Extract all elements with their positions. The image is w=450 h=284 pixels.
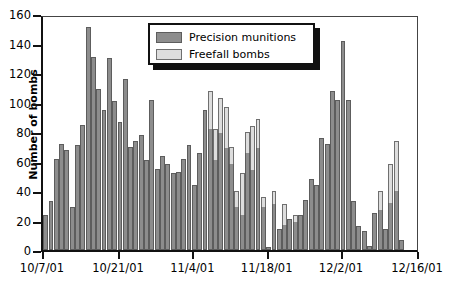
bar-segment-precision-munitions	[49, 201, 54, 250]
bar	[192, 185, 197, 250]
bar	[43, 215, 48, 250]
bar-segment-freefall-bombs	[229, 147, 234, 165]
bar	[64, 150, 69, 250]
bar-segment-precision-munitions	[341, 41, 346, 250]
bar	[187, 145, 192, 250]
chart-legend: Precision munitions Freefall bombs	[148, 23, 315, 65]
bar	[181, 159, 186, 250]
bar-segment-precision-munitions	[224, 148, 229, 250]
bar-segment-precision-munitions	[330, 91, 335, 250]
bar-segment-precision-munitions	[203, 110, 208, 250]
bar	[346, 100, 351, 250]
bar-segment-precision-munitions	[118, 122, 123, 250]
bar-segment-precision-munitions	[128, 147, 133, 250]
bar-segment-freefall-bombs	[272, 191, 277, 204]
bar	[298, 215, 303, 250]
bar	[234, 191, 239, 250]
y-axis-tick	[33, 192, 41, 194]
bar-segment-freefall-bombs	[394, 141, 399, 191]
y-axis-tick-label: 140	[0, 40, 31, 52]
bar-segment-precision-munitions	[335, 100, 340, 250]
bar-segment-precision-munitions	[213, 160, 218, 250]
bar-segment-precision-munitions	[70, 207, 75, 250]
bar-segment-precision-munitions	[261, 207, 266, 250]
bar	[287, 219, 292, 250]
bar	[367, 246, 372, 250]
bar	[107, 58, 112, 250]
bar-segment-freefall-bombs	[213, 129, 218, 160]
bar-segment-precision-munitions	[192, 185, 197, 250]
bar-segment-precision-munitions	[144, 160, 149, 250]
bar-segment-precision-munitions	[282, 225, 287, 250]
bar-segment-precision-munitions	[245, 153, 250, 250]
bar-segment-freefall-bombs	[388, 164, 393, 202]
bar	[229, 147, 234, 250]
bar-segment-precision-munitions	[208, 129, 213, 250]
legend-label-precision-munitions: Precision munitions	[189, 31, 296, 44]
y-axis-tick-label: 60	[0, 158, 31, 170]
bar	[59, 144, 64, 250]
bar	[266, 247, 271, 250]
bar-segment-precision-munitions	[43, 215, 48, 250]
bar-segment-precision-munitions	[160, 156, 165, 250]
bar	[203, 110, 208, 250]
bar-segment-precision-munitions	[80, 125, 85, 250]
bar	[75, 145, 80, 250]
bar	[330, 91, 335, 250]
bar	[293, 215, 298, 250]
bar	[245, 132, 250, 250]
bar-segment-precision-munitions	[388, 203, 393, 250]
bar	[372, 213, 377, 250]
bar	[309, 179, 314, 250]
bar-segment-precision-munitions	[102, 110, 107, 250]
bar-segment-freefall-bombs	[234, 191, 239, 207]
bar-segment-precision-munitions	[351, 201, 356, 250]
bar	[86, 27, 91, 250]
bar-segment-precision-munitions	[272, 204, 277, 250]
x-axis-tick-label: 11/18/01	[227, 261, 307, 275]
legend-item-freefall-bombs: Freefall bombs	[156, 46, 307, 62]
bar	[213, 129, 218, 250]
bar-segment-precision-munitions	[303, 200, 308, 250]
bar-segment-freefall-bombs	[256, 119, 261, 149]
bar-segment-precision-munitions	[197, 153, 202, 250]
bar	[102, 110, 107, 250]
bar-segment-precision-munitions	[96, 89, 101, 250]
bar-segment-freefall-bombs	[224, 107, 229, 148]
bar-segment-freefall-bombs	[240, 173, 245, 214]
y-axis-tick-label: 160	[0, 10, 31, 22]
bar	[80, 125, 85, 250]
bar	[112, 101, 117, 250]
bar	[128, 147, 133, 250]
bar-segment-precision-munitions	[234, 207, 239, 250]
bar	[319, 138, 324, 250]
bar-segment-freefall-bombs	[378, 191, 383, 210]
bar	[240, 173, 245, 250]
y-axis-tick-label: 20	[0, 217, 31, 229]
bar	[208, 91, 213, 250]
bar	[314, 185, 319, 250]
bar	[224, 107, 229, 250]
bar	[261, 197, 266, 250]
x-axis-tick	[267, 252, 269, 259]
y-axis-tick	[33, 133, 41, 135]
bar	[155, 169, 160, 250]
bar-segment-precision-munitions	[250, 170, 255, 250]
bar	[356, 226, 361, 250]
bar	[54, 159, 59, 250]
bar	[70, 207, 75, 250]
bar-segment-freefall-bombs	[293, 215, 298, 222]
bar-segment-precision-munitions	[229, 164, 234, 250]
bar-segment-precision-munitions	[155, 169, 160, 250]
x-axis-tick-label: 12/2/01	[301, 261, 381, 275]
bomb-tonnage-bar-chart: Number of bombs 020406080100120140160 10…	[0, 0, 450, 284]
bar	[277, 229, 282, 250]
bar-segment-precision-munitions	[298, 215, 303, 250]
x-axis-tick	[42, 252, 44, 259]
bar-segment-precision-munitions	[218, 133, 223, 250]
bar-segment-precision-munitions	[165, 164, 170, 250]
x-axis-tick	[118, 252, 120, 259]
bar-segment-precision-munitions	[59, 144, 64, 250]
bar-segment-freefall-bombs	[245, 132, 250, 153]
y-axis-tick-label: 40	[0, 187, 31, 199]
